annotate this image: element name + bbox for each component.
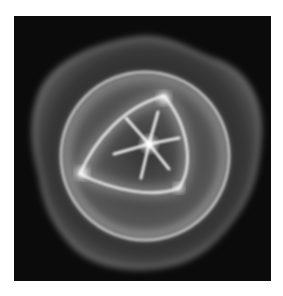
center-glow xyxy=(137,132,161,156)
glowing-shape-illustration xyxy=(14,16,271,281)
image-frame xyxy=(14,16,271,281)
